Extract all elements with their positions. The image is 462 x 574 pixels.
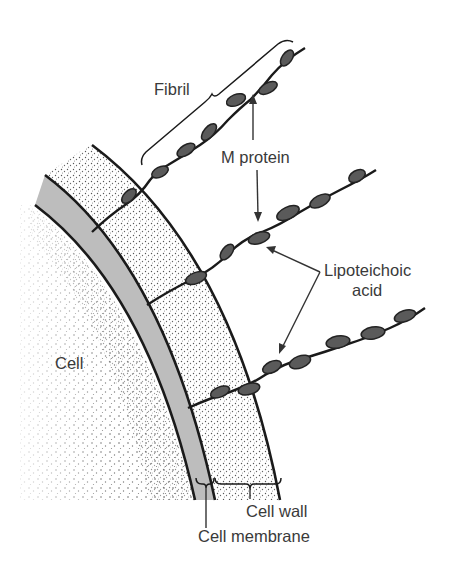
label-cell: Cell xyxy=(55,354,83,372)
cell-surface-diagram: Fibril M protein Lipoteichoic acid Cell … xyxy=(0,0,462,574)
label-cell-wall: Cell wall xyxy=(246,502,307,520)
label-acid: acid xyxy=(352,281,382,299)
label-cell-membrane: Cell membrane xyxy=(198,527,310,545)
label-lipoteichoic: Lipoteichoic xyxy=(324,261,411,279)
label-fibril: Fibril xyxy=(154,80,190,98)
lipoteichoic-acid-arrows xyxy=(266,246,320,354)
fibril-bracket xyxy=(142,40,294,165)
label-m-protein: M protein xyxy=(221,148,290,166)
